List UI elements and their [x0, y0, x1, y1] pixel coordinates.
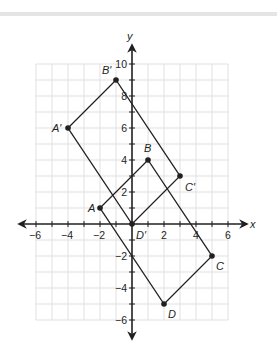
- x-tick-label: −4: [61, 229, 73, 241]
- point-c-prime: [177, 173, 183, 179]
- point-b-prime: [113, 77, 119, 83]
- x-tick-label: 2: [161, 229, 167, 241]
- label-d: D: [168, 308, 176, 320]
- x-tick-label: 6: [225, 229, 231, 241]
- x-axis-label: x: [249, 218, 256, 230]
- y-tick-label: −2: [115, 250, 127, 262]
- label-c: C: [216, 260, 224, 272]
- point-a: [97, 205, 103, 211]
- point-d: [161, 301, 167, 307]
- label-d-prime: D′: [136, 229, 147, 241]
- y-axis-label: y: [126, 30, 134, 42]
- y-tick-label: 6: [121, 122, 127, 134]
- y-tick-label: −6: [115, 314, 127, 326]
- y-tick-label: −4: [115, 282, 127, 294]
- point-c: [209, 253, 215, 259]
- point-a-prime: [65, 125, 71, 131]
- label-b-prime: B′: [102, 64, 112, 76]
- label-b: B: [144, 142, 151, 154]
- label-a-prime: A′: [51, 122, 62, 134]
- x-tick-label: −2: [93, 229, 105, 241]
- coordinate-plane: x y −6 −4 −2 2 4 6 10 8 6 4 2 −2 −4 −6 A…: [0, 0, 277, 351]
- label-c-prime: C′: [185, 181, 196, 193]
- y-tick-label: 2: [121, 186, 127, 198]
- x-tick-label: −6: [29, 229, 41, 241]
- label-a: A: [87, 202, 95, 214]
- y-tick-label: 4: [121, 154, 127, 166]
- y-tick-label: 10: [115, 58, 127, 70]
- point-d-prime: [129, 221, 135, 227]
- point-b: [145, 157, 151, 163]
